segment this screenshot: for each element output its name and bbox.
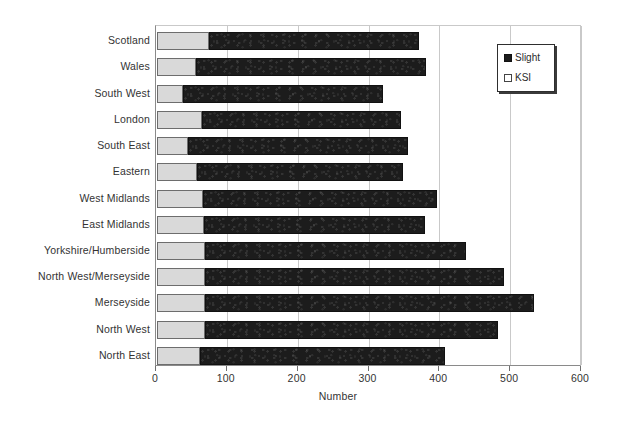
legend-label-ksi: KSI [515, 72, 531, 83]
legend-label-slight: Slight [515, 52, 540, 63]
category-label: Scotland [108, 34, 150, 46]
legend-item-slight: Slight [504, 52, 540, 63]
x-tick-600 [580, 366, 581, 371]
bar-segment-ksi [157, 111, 202, 129]
bar-segment-ksi [157, 85, 183, 103]
bar-segment-slight [205, 242, 466, 260]
light-square-icon [504, 74, 512, 82]
bar-segment-ksi [157, 190, 203, 208]
bar-segment-ksi [157, 216, 204, 234]
bar-row [156, 190, 582, 208]
category-label: North East [99, 349, 150, 361]
x-tick-label-600: 600 [560, 372, 600, 384]
x-axis-title-text: Number [319, 390, 358, 402]
x-tick-label-400: 400 [418, 372, 458, 384]
x-tick-label-300: 300 [348, 372, 388, 384]
bar-segment-slight [200, 347, 446, 365]
x-tick-500 [509, 366, 510, 371]
bar-segment-ksi [157, 321, 205, 339]
bar-row [156, 163, 582, 181]
bar-chart: ScotlandWalesSouth WestLondonSouth EastE… [0, 0, 620, 421]
x-tick-200 [297, 366, 298, 371]
bar-segment-ksi [157, 58, 196, 76]
bar-row [156, 137, 582, 155]
bar-segment-ksi [157, 32, 209, 50]
bar-segment-slight [205, 268, 504, 286]
dark-square-icon [504, 54, 512, 62]
x-tick-label-500: 500 [489, 372, 529, 384]
legend-item-ksi: KSI [504, 72, 531, 83]
bar-segment-ksi [157, 163, 197, 181]
bar-segment-ksi [157, 347, 200, 365]
bar-row [156, 216, 582, 234]
bar-segment-slight [197, 163, 404, 181]
bar-row [156, 268, 582, 286]
x-tick-label-200: 200 [277, 372, 317, 384]
bar-row [156, 242, 582, 260]
category-label: North West/Merseyside [38, 270, 150, 282]
bar-segment-ksi [157, 137, 188, 155]
x-tick-100 [226, 366, 227, 371]
x-tick-label-100: 100 [206, 372, 246, 384]
bar-segment-slight [188, 137, 408, 155]
bar-row [156, 111, 582, 129]
bar-segment-slight [203, 190, 437, 208]
bar-segment-slight [196, 58, 426, 76]
bar-row [156, 294, 582, 312]
category-label: South West [94, 87, 150, 99]
bar-segment-slight [202, 111, 402, 129]
x-axis-title: Number [0, 390, 620, 402]
bar-row [156, 321, 582, 339]
bar-segment-slight [204, 216, 425, 234]
x-tick-300 [368, 366, 369, 371]
bar-segment-ksi [157, 242, 205, 260]
bar-segment-slight [183, 85, 383, 103]
bar-row [156, 347, 582, 365]
x-tick-400 [438, 366, 439, 371]
x-tick-0 [155, 366, 156, 371]
category-label: Eastern [113, 165, 150, 177]
category-label: South East [97, 139, 150, 151]
category-label: Yorkshire/Humberside [44, 244, 150, 256]
bar-segment-ksi [157, 294, 205, 312]
category-label: London [114, 113, 150, 125]
category-label: Wales [120, 60, 150, 72]
legend: Slight KSI [497, 44, 555, 92]
bar-segment-slight [205, 294, 534, 312]
category-label: Merseyside [95, 296, 150, 308]
category-label: North West [96, 323, 150, 335]
bar-segment-ksi [157, 268, 205, 286]
category-label: West Midlands [79, 192, 150, 204]
bar-segment-slight [205, 321, 498, 339]
category-label: East Midlands [82, 218, 150, 230]
bar-segment-slight [209, 32, 419, 50]
x-tick-label-0: 0 [135, 372, 175, 384]
